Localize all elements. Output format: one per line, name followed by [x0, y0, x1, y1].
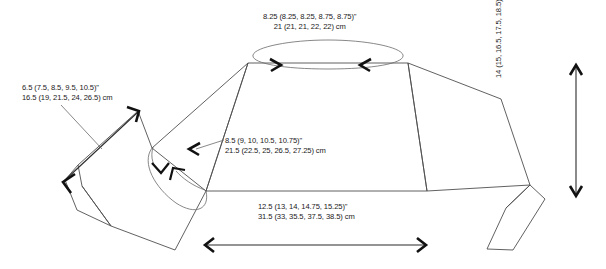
- hem-width-arrow: [205, 238, 426, 252]
- garment-body-outline: [206, 63, 427, 191]
- body-length-metric: 14 (15, 16.5, 17.5, 18.5) cm: [493, 0, 504, 78]
- label-upper-body-width: 8.5 (9, 10, 10.5, 10.75)" 21.5 (22.5, 25…: [225, 136, 326, 157]
- label-neck-opening: 8.25 (8.25, 8.25, 8.75, 8.75)" 21 (21, 2…: [263, 12, 356, 33]
- left-armhole-ellipse: [148, 148, 207, 210]
- body-length-arrow: [570, 65, 582, 196]
- schematic-diagram: 8.25 (8.25, 8.25, 8.75, 8.75)" 21 (21, 2…: [0, 0, 606, 269]
- right-sleeve-outline: [408, 63, 545, 250]
- neck-arrow-left: [360, 59, 371, 71]
- sleeve-length-metric: 16.5 (19, 21.5, 24, 26.5) cm: [22, 93, 113, 103]
- label-sleeve-length: 6.5 (7.5, 8.5, 9.5, 10.5)" 16.5 (19, 21.…: [22, 83, 113, 104]
- neck-opening-ellipse: [253, 40, 403, 69]
- hem-width-imperial: 12.5 (13, 14, 14.75, 15.25)": [258, 202, 355, 212]
- sleeve-length-leader: [61, 105, 102, 149]
- label-hem-width: 12.5 (13, 14, 14.75, 15.25)" 31.5 (33, 3…: [258, 202, 355, 223]
- neck-opening-imperial: 8.25 (8.25, 8.25, 8.75, 8.75)": [263, 12, 356, 22]
- armhole-curve-arrow-up: [170, 168, 205, 190]
- upper-body-width-imperial: 8.5 (9, 10, 10.5, 10.75)": [225, 136, 326, 146]
- upper-body-width-metric: 21.5 (22.5, 25, 26.5, 27.25) cm: [225, 146, 326, 156]
- label-body-length: 5.5 (5.75, 6.5, 7, 7.25)" 14 (15, 16.5, …: [493, 0, 507, 78]
- neck-opening-metric: 21 (21, 21, 22, 22) cm: [263, 22, 356, 32]
- schematic-drawing: [0, 0, 606, 269]
- hem-width-metric: 31.5 (33, 35.5, 37.5, 38.5) cm: [258, 212, 355, 222]
- sleeve-length-imperial: 6.5 (7.5, 8.5, 9.5, 10.5)": [22, 83, 113, 93]
